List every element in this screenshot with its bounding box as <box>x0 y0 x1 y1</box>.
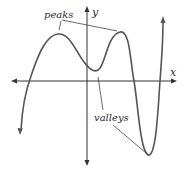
x-axis-left-arrow-icon <box>11 79 17 84</box>
y-axis-down-arrow-icon <box>85 160 90 166</box>
valleys-label: valleys <box>94 112 129 123</box>
y-axis <box>85 6 90 166</box>
peaks-label: peaks <box>44 9 73 20</box>
peaks-leader-line-right <box>62 20 117 31</box>
peaks-leader-line-left <box>59 21 61 30</box>
y-axis-label: y <box>91 6 99 19</box>
y-axis-up-arrow-icon <box>85 6 90 12</box>
x-axis-label: x <box>170 66 177 79</box>
x-axis-right-arrow-icon <box>171 79 177 84</box>
curve-left-arrow-icon <box>18 128 23 135</box>
valleys-leader-line-upper <box>98 77 103 110</box>
polynomial-graph-diagram: x y peaks valleys <box>0 0 184 172</box>
curve-right-arrow-icon <box>161 16 166 23</box>
function-curve <box>18 16 166 155</box>
graph-canvas: x y peaks valleys <box>0 0 184 172</box>
peaks-annotation: peaks <box>44 9 117 31</box>
x-axis <box>11 79 177 84</box>
